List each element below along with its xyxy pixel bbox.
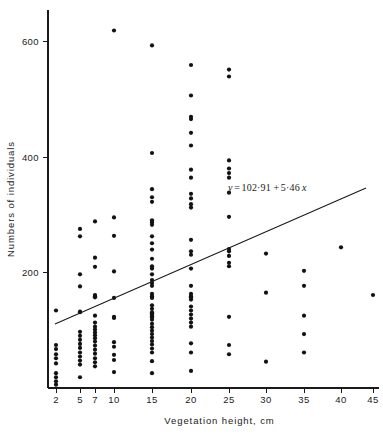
data-point	[227, 158, 231, 162]
data-point	[227, 215, 231, 219]
y-tick-label: 600	[22, 36, 39, 47]
x-tick-label: 10	[108, 394, 119, 405]
x-tick-label: 40	[335, 394, 346, 405]
data-point	[78, 350, 82, 354]
data-point	[78, 227, 82, 231]
data-point	[189, 304, 193, 308]
data-point	[227, 68, 231, 72]
data-point	[150, 284, 154, 288]
data-point	[78, 234, 82, 238]
data-point	[189, 298, 193, 302]
x-tick-label: 35	[298, 394, 309, 405]
data-point	[189, 143, 193, 147]
data-point	[150, 359, 154, 363]
data-point	[227, 343, 231, 347]
data-point	[302, 284, 306, 288]
y-tick-label: 200	[22, 267, 39, 278]
data-point	[150, 195, 154, 199]
data-point	[78, 284, 82, 288]
data-point	[93, 352, 97, 356]
x-tick-label: 45	[367, 394, 378, 405]
data-point	[371, 293, 375, 297]
data-point	[78, 330, 82, 334]
data-point	[264, 252, 268, 256]
data-point	[189, 176, 193, 180]
data-point	[189, 369, 193, 373]
data-point	[78, 354, 82, 358]
data-point	[150, 296, 154, 300]
data-point	[189, 308, 193, 312]
y-tick-label: 400	[22, 152, 39, 163]
data-point	[302, 269, 306, 273]
x-axis-tick-labels: 2571015202530354045	[53, 394, 379, 405]
data-point	[189, 117, 193, 121]
data-point	[54, 361, 58, 365]
data-point	[150, 247, 154, 251]
regression-line	[55, 188, 366, 324]
data-point	[227, 254, 231, 258]
data-point	[93, 219, 97, 223]
data-point	[339, 245, 343, 249]
data-point	[189, 131, 193, 135]
data-point	[189, 206, 193, 210]
data-point	[150, 241, 154, 245]
data-point	[189, 168, 193, 172]
data-point	[189, 63, 193, 67]
data-point	[227, 74, 231, 78]
data-point	[54, 352, 58, 356]
data-point	[112, 234, 116, 238]
data-point	[78, 272, 82, 276]
data-point	[189, 325, 193, 329]
data-point	[150, 43, 154, 47]
data-point	[189, 238, 193, 242]
data-point	[150, 371, 154, 375]
y-axis-ticks	[43, 41, 48, 272]
data-point	[189, 93, 193, 97]
x-tick-label: 15	[146, 394, 157, 405]
data-point	[93, 256, 97, 260]
data-point	[112, 345, 116, 349]
data-point	[150, 350, 154, 354]
x-tick-label: 5	[77, 394, 83, 405]
data-point	[112, 340, 116, 344]
x-tick-label: 30	[260, 394, 271, 405]
data-point	[189, 192, 193, 196]
data-point	[264, 291, 268, 295]
data-point	[227, 171, 231, 175]
data-point	[112, 215, 116, 219]
data-point	[189, 196, 193, 200]
data-point	[227, 176, 231, 180]
data-point	[93, 265, 97, 269]
data-point	[93, 364, 97, 368]
data-point	[78, 362, 82, 366]
data-point	[93, 314, 97, 318]
data-point	[93, 344, 97, 348]
data-point	[150, 200, 154, 204]
data-point	[189, 312, 193, 316]
data-point	[302, 350, 306, 354]
data-point	[150, 234, 154, 238]
data-point	[150, 346, 154, 350]
data-point	[78, 375, 82, 379]
data-point	[54, 347, 58, 351]
scatter-plot-figure: 200400600 2571015202530354045 y=102·91+5…	[0, 0, 383, 435]
data-point	[54, 343, 58, 347]
data-point	[150, 266, 154, 270]
data-point	[93, 321, 97, 325]
data-point	[150, 272, 154, 276]
x-tick-label: 7	[92, 394, 98, 405]
data-point	[150, 151, 154, 155]
data-point	[112, 269, 116, 273]
x-axis-ticks	[56, 388, 373, 393]
data-point	[302, 314, 306, 318]
data-point	[93, 339, 97, 343]
data-point	[189, 266, 193, 270]
data-point	[78, 342, 82, 346]
data-point	[189, 284, 193, 288]
data-point	[112, 353, 116, 357]
data-point	[150, 257, 154, 261]
data-point	[189, 350, 193, 354]
data-point	[150, 223, 154, 227]
data-point	[112, 358, 116, 362]
x-tick-label: 25	[223, 394, 234, 405]
